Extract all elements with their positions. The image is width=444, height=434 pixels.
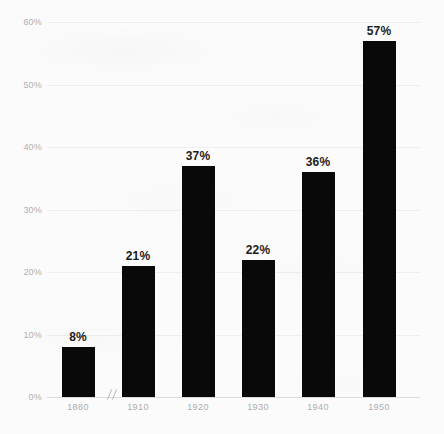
x-tick-label-1950: 1950 xyxy=(349,402,409,413)
y-tick-label-40: 40% xyxy=(6,142,42,152)
bar-1940[interactable] xyxy=(302,172,335,397)
gridline-60 xyxy=(47,22,420,23)
x-tick-label-1940: 1940 xyxy=(288,402,348,413)
x-tick-label-1910: 1910 xyxy=(108,402,168,413)
bar-chart: 60% 50% 40% 30% 20% 10% 0% 8% 1880 21% 1… xyxy=(0,0,444,434)
bar-1920[interactable] xyxy=(182,166,215,397)
bar-value-label-1930: 22% xyxy=(228,244,288,257)
bar-value-label-1950: 57% xyxy=(349,25,409,38)
y-tick-label-20: 20% xyxy=(6,267,42,277)
y-tick-label-50: 50% xyxy=(6,80,42,90)
bar-1930[interactable] xyxy=(242,260,275,397)
bar-1910[interactable] xyxy=(122,266,155,397)
plot-area: 60% 50% 40% 30% 20% 10% 0% 8% 1880 21% 1… xyxy=(0,0,444,434)
y-tick-label-30: 30% xyxy=(6,205,42,215)
bar-value-label-1880: 8% xyxy=(48,331,108,344)
bar-value-label-1910: 21% xyxy=(108,250,168,263)
x-tick-label-1930: 1930 xyxy=(228,402,288,413)
axis-break-icon xyxy=(105,389,121,401)
x-axis-line xyxy=(47,397,420,398)
x-tick-label-1880: 1880 xyxy=(48,402,108,413)
y-tick-label-60: 60% xyxy=(6,17,42,27)
bar-value-label-1920: 37% xyxy=(168,150,228,163)
x-tick-label-1920: 1920 xyxy=(168,402,228,413)
bar-1950[interactable] xyxy=(363,41,396,397)
bar-value-label-1940: 36% xyxy=(288,156,348,169)
y-tick-label-0: 0% xyxy=(6,392,42,402)
y-tick-label-10: 10% xyxy=(6,330,42,340)
bar-1880[interactable] xyxy=(62,347,95,397)
